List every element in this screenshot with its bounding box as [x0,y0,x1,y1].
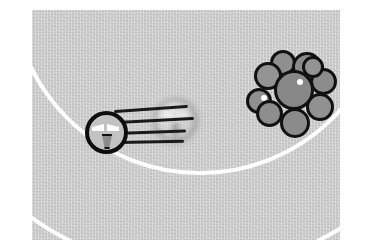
motion-speed-lines [114,108,210,152]
illustration-panel [32,10,340,240]
figure-title: Alpha particle deflected by an atomic nu… [0,21,1,22]
nucleon-sphere [280,108,310,138]
nucleon-sphere [274,70,314,110]
atomic-nucleus-cluster [244,48,340,144]
sphere-highlight [297,79,303,85]
illustration-scene: Alpha particle deflected by an atomic nu… [0,0,365,252]
alpha-particle-character [85,111,128,154]
